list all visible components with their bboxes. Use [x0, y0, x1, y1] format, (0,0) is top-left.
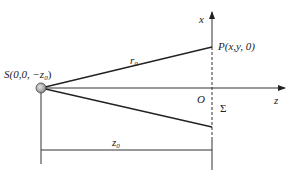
plane-sigma-label: Σ: [220, 102, 226, 114]
z-axis-label: z: [273, 94, 279, 106]
x-axis-label: x: [198, 13, 204, 25]
ray-r0: [41, 47, 212, 88]
distance-z0-label: z0: [111, 136, 120, 150]
optics-diagram: S(0,0, −z0) r0 P(x,y, 0) x z O Σ z0: [0, 0, 302, 181]
point-p-label: P(x,y, 0): [217, 40, 255, 53]
r0-label: r0: [130, 54, 138, 68]
source-label: S(0,0, −z0): [4, 68, 52, 82]
source-point-icon: [36, 83, 46, 93]
ray-lower: [41, 88, 212, 127]
origin-label: O: [197, 93, 205, 105]
